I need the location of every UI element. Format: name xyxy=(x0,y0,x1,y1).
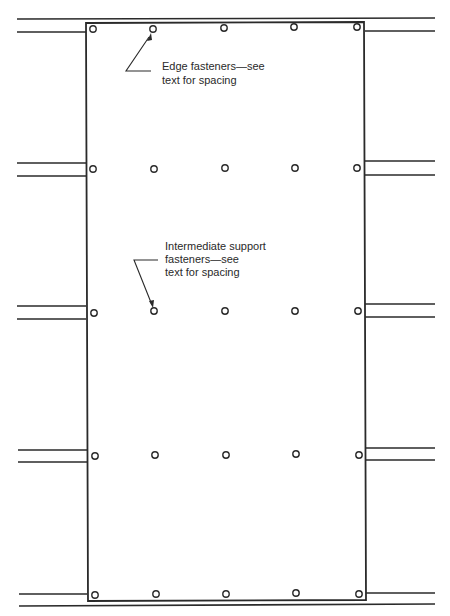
intermediate-fasteners-callout: Intermediate support fasteners—see text … xyxy=(134,240,266,308)
top-support-outer-line xyxy=(17,18,435,19)
fastener-icon xyxy=(152,452,158,458)
edge-fasteners-leader-line xyxy=(126,37,151,71)
fastener-icon xyxy=(356,591,362,597)
fastener-icon xyxy=(151,308,157,314)
arrowhead-icon xyxy=(147,33,152,41)
fastener-icon xyxy=(291,24,297,30)
fastener-icon xyxy=(90,26,96,32)
fastener-icon xyxy=(293,451,299,457)
intermediate-fasteners-label-line-3: text for spacing xyxy=(165,266,240,278)
fastener-icon xyxy=(90,166,96,172)
fastener-icon xyxy=(153,591,159,597)
fastener-icon xyxy=(222,165,228,171)
fastener-icon xyxy=(223,591,229,597)
fastener-icon xyxy=(222,308,228,314)
fastener-icon xyxy=(223,452,229,458)
arrowhead-icon xyxy=(149,300,154,308)
fastener-icon xyxy=(354,24,360,30)
intermediate-fasteners-label-line-2: fasteners—see xyxy=(165,253,239,265)
fastener-icon xyxy=(292,165,298,171)
fastener-icon xyxy=(354,165,360,171)
fastener-icon xyxy=(292,308,298,314)
fastener-icon xyxy=(92,453,98,459)
fastener-icon xyxy=(355,308,361,314)
intermediate-fasteners-leader-line xyxy=(134,260,158,305)
edge-fasteners-label-line-2: text for spacing xyxy=(162,74,237,86)
fasteners xyxy=(90,24,362,598)
fastener-icon xyxy=(91,310,97,316)
intermediate-fasteners-label-line-1: Intermediate support xyxy=(165,240,266,252)
fastener-icon xyxy=(221,25,227,31)
bottom-support-outer-line xyxy=(19,604,435,606)
fastener-icon xyxy=(356,452,362,458)
fastener-icon xyxy=(151,166,157,172)
edge-fasteners-label-line-1: Edge fasteners—see xyxy=(162,60,265,72)
fastener-icon xyxy=(92,592,98,598)
fastener-icon xyxy=(293,590,299,596)
edge-fasteners-callout: Edge fasteners—see text for spacing xyxy=(126,33,265,86)
fastener-layout-diagram: Edge fasteners—see text for spacing Inte… xyxy=(0,0,450,616)
fastener-icon xyxy=(150,26,156,32)
